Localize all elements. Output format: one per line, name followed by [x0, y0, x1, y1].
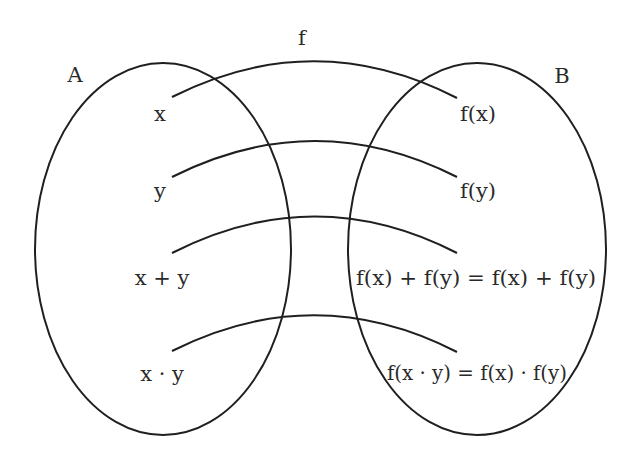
domain-element-x: x	[154, 102, 166, 126]
domain-element-y: y	[153, 179, 166, 203]
mapping-arc-x-plus-y	[172, 217, 457, 254]
mapping-arc-x	[172, 61, 457, 98]
codomain-element-product: f(x · y) = f(x) · f(y)	[387, 361, 567, 385]
codomain-element-fy: f(y)	[460, 179, 496, 203]
codomain-element-sum: f(x) + f(y) = f(x) + f(y)	[356, 266, 596, 290]
mapping-arc-x-times-y	[172, 315, 457, 352]
mapping-arc-y	[172, 141, 457, 177]
codomain-element-fx: f(x)	[460, 102, 496, 126]
domain-element-x-times-y: x · y	[140, 362, 184, 386]
set-b-label: B	[554, 64, 569, 88]
function-label: f	[298, 26, 308, 50]
set-a-label: A	[66, 63, 83, 87]
mapping-diagram: A B f x y x + y x · y f(x) f(y) f(x) + f…	[0, 0, 635, 465]
domain-element-x-plus-y: x + y	[135, 266, 190, 290]
